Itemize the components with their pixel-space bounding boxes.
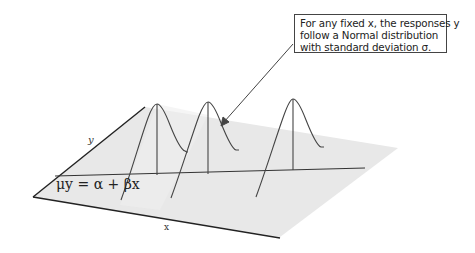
callout-arrow xyxy=(221,44,293,126)
callout-line-1: For any fixed x, the responses y xyxy=(300,17,442,29)
callout-box: For any fixed x, the responses y follow … xyxy=(294,14,447,53)
x-axis-label: x xyxy=(164,222,169,232)
callout-line-2: follow a Normal distribution xyxy=(300,29,442,41)
y-axis-label: y xyxy=(88,134,94,145)
regression-equation: μy = α + βx xyxy=(56,176,140,192)
callout-line-3: with standard deviation σ. xyxy=(300,41,442,53)
